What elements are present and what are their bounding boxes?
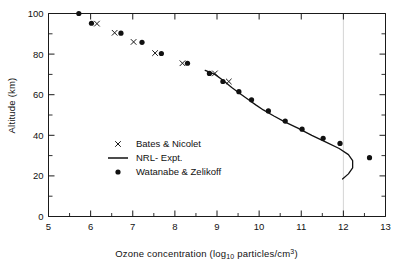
y-tick-label: 60 — [33, 89, 44, 100]
watanabe-zelikoff-point — [185, 61, 190, 66]
y-tick-label: 0 — [38, 211, 43, 222]
data-series-layer — [76, 11, 372, 179]
watanabe-zelikoff-point — [89, 21, 94, 26]
x-axis-title: Ozone concentration (log10 particles/cm3… — [0, 248, 413, 260]
bates-nicolet-point — [180, 60, 186, 66]
nrl-expt-curve — [205, 70, 352, 179]
chart-canvas: 5678910111213020406080100 Bates & Nicole… — [0, 0, 413, 273]
x-tick-label: 6 — [88, 221, 93, 232]
legend-layer: Bates & NicoletNRL- Expt.Watanabe & Zeli… — [108, 138, 221, 177]
x-tick-label: 10 — [254, 221, 265, 232]
x-tick-label: 12 — [338, 221, 349, 232]
legend-dot-icon — [115, 169, 120, 174]
ozone-altitude-figure: 5678910111213020406080100 Bates & Nicole… — [0, 0, 413, 273]
y-tick-label: 100 — [28, 8, 44, 19]
bates-nicolet-point — [94, 21, 100, 27]
x-tick-label: 9 — [214, 221, 219, 232]
y-tick-label: 80 — [33, 49, 44, 60]
watanabe-zelikoff-point — [118, 31, 123, 36]
tick-label-layer: 5678910111213020406080100 — [28, 8, 391, 232]
x-tick-label: 13 — [380, 221, 391, 232]
legend-label: NRL- Expt. — [136, 152, 182, 163]
legend-x-icon — [115, 141, 121, 147]
watanabe-zelikoff-point — [159, 51, 164, 56]
x-tick-label: 8 — [172, 221, 177, 232]
x-tick-label: 5 — [46, 221, 51, 232]
watanabe-zelikoff-point — [76, 11, 81, 16]
legend-label: Watanabe & Zelikoff — [136, 166, 221, 177]
watanabe-zelikoff-point — [139, 40, 144, 45]
x-tick-label: 11 — [296, 221, 306, 232]
x-tick-label: 7 — [130, 221, 135, 232]
y-tick-label: 40 — [33, 130, 44, 141]
bates-nicolet-point — [152, 50, 158, 56]
y-axis-title: Altitude (km) — [6, 61, 17, 151]
axis-layer — [49, 14, 386, 217]
legend-label: Bates & Nicolet — [136, 138, 201, 149]
bates-nicolet-point — [112, 30, 118, 36]
y-tick-label: 20 — [33, 170, 44, 181]
watanabe-zelikoff-point — [337, 141, 342, 146]
watanabe-zelikoff-point — [367, 155, 372, 160]
bates-nicolet-point — [131, 39, 137, 45]
